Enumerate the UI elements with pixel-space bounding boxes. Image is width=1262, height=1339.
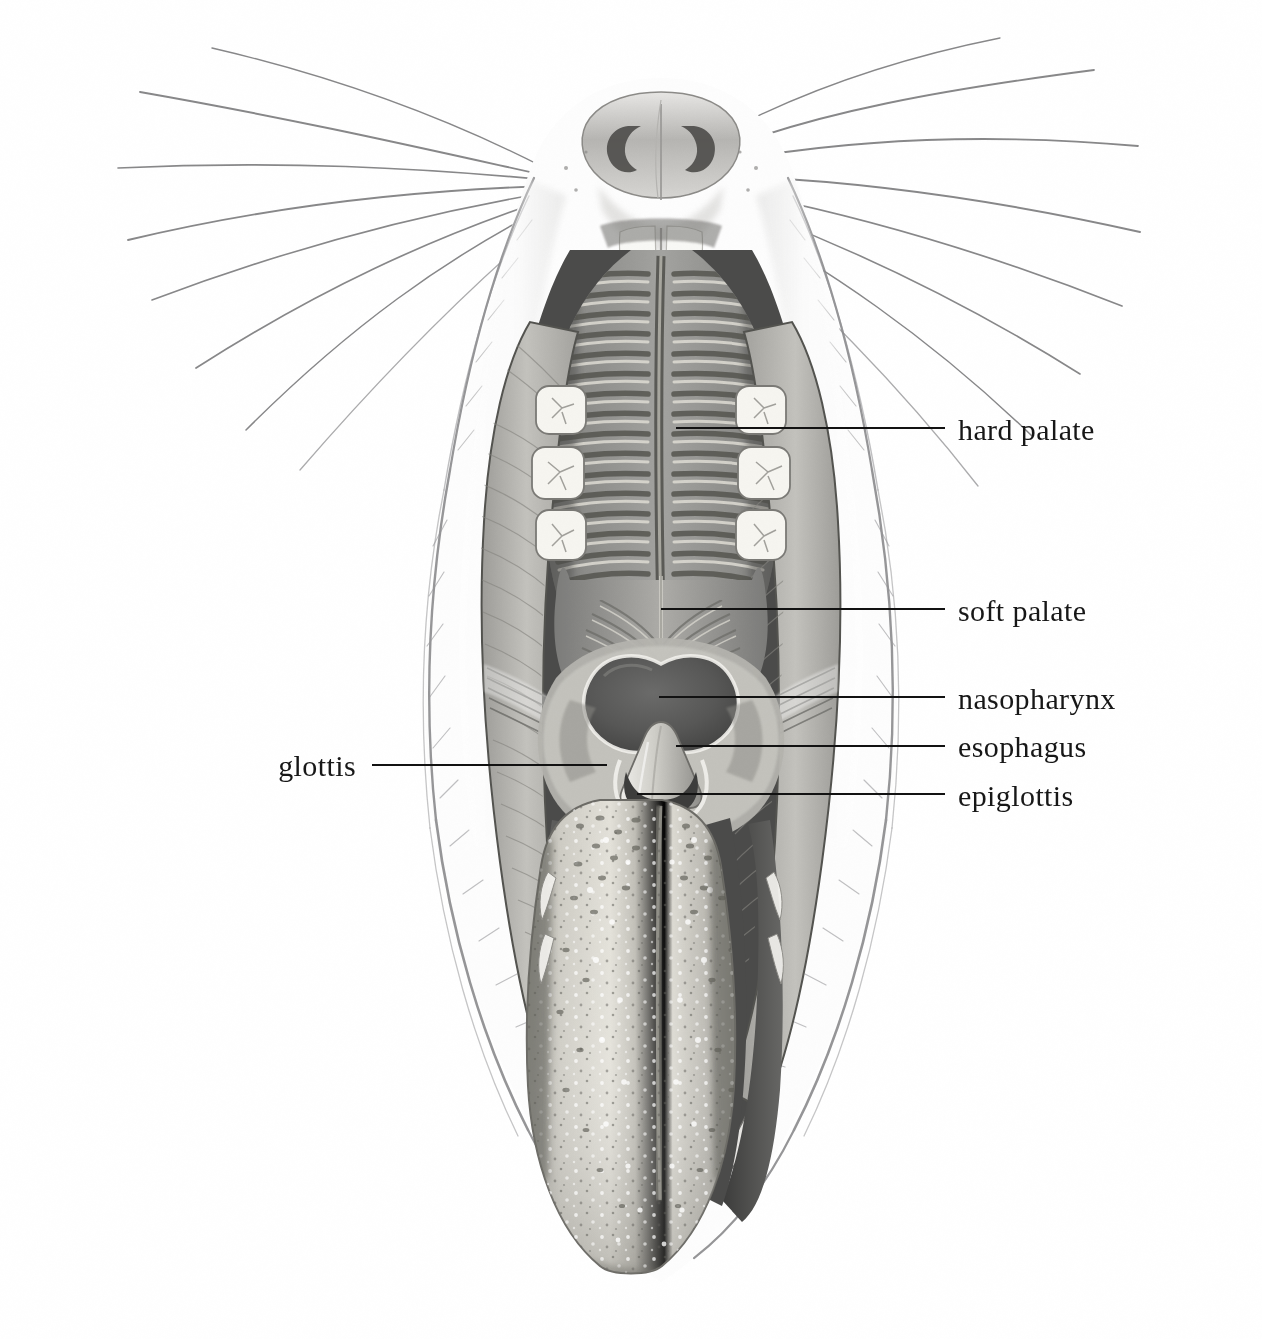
label-epiglottis: epiglottis [958, 779, 1074, 812]
label-esophagus: esophagus [958, 730, 1087, 763]
paper-grain [0, 0, 1262, 1339]
label-nasopharynx: nasopharynx [958, 682, 1116, 715]
figure-root: hard palate soft palate nasopharynx esop… [0, 0, 1262, 1339]
label-soft-palate: soft palate [958, 594, 1087, 627]
label-glottis: glottis [278, 749, 356, 782]
label-hard-palate: hard palate [958, 413, 1095, 446]
anatomy-illustration: hard palate soft palate nasopharynx esop… [0, 0, 1262, 1339]
